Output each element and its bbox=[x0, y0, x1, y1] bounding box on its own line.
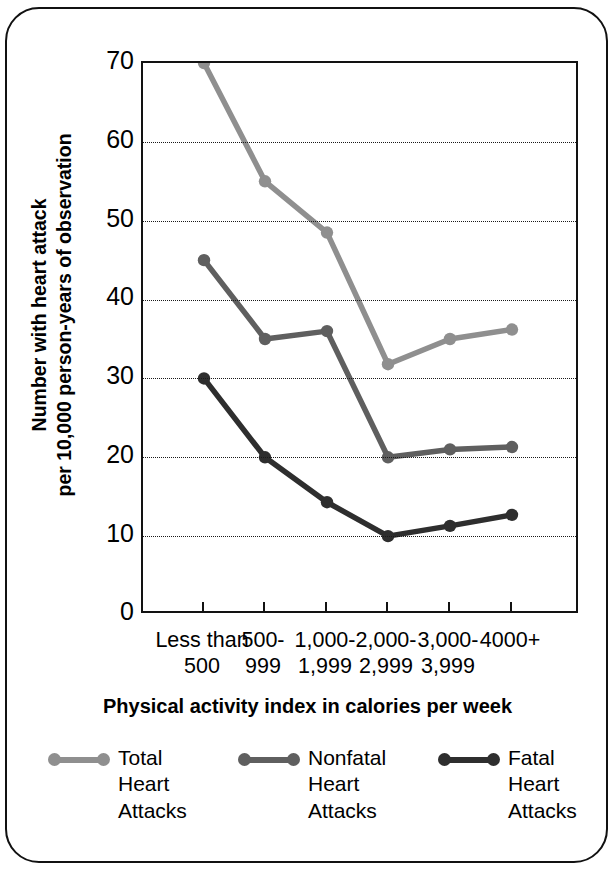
y-axis-title-line2: per 10,000 person-years of observation bbox=[52, 80, 77, 550]
x-tick-1 bbox=[263, 602, 265, 613]
series-line-1 bbox=[204, 260, 512, 457]
data-point bbox=[198, 254, 210, 266]
x-tick-3 bbox=[386, 602, 388, 613]
y-tick-label-50: 50 bbox=[90, 206, 134, 231]
x-tick-2 bbox=[325, 602, 327, 613]
data-point bbox=[444, 443, 456, 455]
legend-label-fatal: Fatal Heart Attacks bbox=[508, 745, 577, 824]
data-point bbox=[259, 333, 271, 345]
y-tick-label-70: 70 bbox=[90, 48, 134, 73]
y-tick-label-10: 10 bbox=[90, 521, 134, 546]
legend-label-nonfatal: Nonfatal Heart Attacks bbox=[308, 745, 386, 824]
y-axis-title-line1: Number with heart attack bbox=[27, 80, 52, 550]
y-tick-label-60: 60 bbox=[90, 127, 134, 152]
y-tick-label-0: 0 bbox=[90, 599, 134, 624]
legend-dot-fatal-right bbox=[487, 753, 500, 766]
legend-swatch-fatal-icon bbox=[438, 749, 500, 771]
gridline-40 bbox=[143, 300, 576, 301]
legend-item-total[interactable]: Total Heart Attacks bbox=[48, 745, 238, 824]
y-tick-label-20: 20 bbox=[90, 442, 134, 467]
data-point bbox=[321, 496, 333, 508]
gridline-60 bbox=[143, 142, 576, 143]
x-tick-5 bbox=[510, 602, 512, 613]
gridline-50 bbox=[143, 221, 576, 222]
data-point bbox=[259, 175, 271, 187]
legend-dot-total-left bbox=[48, 753, 61, 766]
plot-area bbox=[141, 61, 578, 613]
legend-label-total: Total Heart Attacks bbox=[118, 745, 187, 824]
legend-dot-nonfatal-left bbox=[238, 753, 251, 766]
y-tick-label-40: 40 bbox=[90, 284, 134, 309]
y-tick-label-30: 30 bbox=[90, 363, 134, 388]
data-point bbox=[506, 509, 518, 521]
gridline-10 bbox=[143, 536, 576, 537]
gridline-30 bbox=[143, 378, 576, 379]
legend-dot-fatal-left bbox=[438, 753, 451, 766]
y-axis-title: Number with heart attack per 10,000 pers… bbox=[27, 80, 77, 550]
gridline-20 bbox=[143, 457, 576, 458]
chart-legend: Total Heart Attacks Nonfatal Heart Attac… bbox=[48, 745, 588, 824]
data-point bbox=[382, 358, 394, 370]
x-tick-4 bbox=[448, 602, 450, 613]
legend-dot-nonfatal-right bbox=[287, 753, 300, 766]
legend-item-nonfatal[interactable]: Nonfatal Heart Attacks bbox=[238, 745, 438, 824]
series-plot bbox=[143, 63, 580, 615]
legend-swatch-nonfatal-icon bbox=[238, 749, 300, 771]
x-axis-title: Physical activity index in calories per … bbox=[0, 695, 615, 718]
x-tick-0 bbox=[202, 602, 204, 613]
line-chart: Number with heart attack per 10,000 pers… bbox=[0, 0, 615, 876]
data-point bbox=[321, 226, 333, 238]
data-point bbox=[444, 333, 456, 345]
data-point bbox=[506, 323, 518, 335]
x-tick-label-5: 4000+ bbox=[466, 627, 554, 653]
legend-swatch-total-icon bbox=[48, 749, 110, 771]
data-point bbox=[444, 520, 456, 532]
legend-dot-total-right bbox=[97, 753, 110, 766]
data-point bbox=[321, 325, 333, 337]
data-point bbox=[506, 441, 518, 453]
legend-item-fatal[interactable]: Fatal Heart Attacks bbox=[438, 745, 588, 824]
